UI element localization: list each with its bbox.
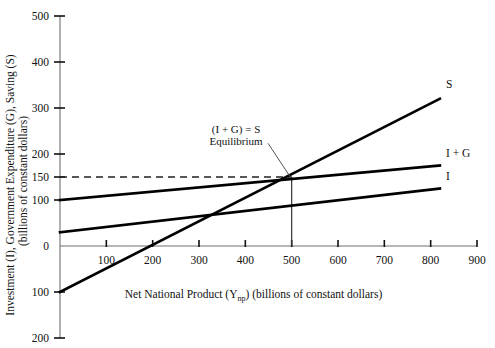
x-axis-tick-labels: 100200300400500600700800900 xyxy=(98,254,486,266)
series-labels: SI + GI xyxy=(446,78,470,182)
x-tick-label: 800 xyxy=(422,254,440,266)
x-tick-label: 600 xyxy=(329,254,347,266)
y-tick-label: 400 xyxy=(32,56,50,68)
x-tick-label: 200 xyxy=(144,254,162,266)
chart-container: 5004003002001501000100200 10020030040050… xyxy=(0,0,495,348)
economics-line-chart: 5004003002001501000100200 10020030040050… xyxy=(0,0,495,348)
y-tick-label: 200 xyxy=(32,332,50,344)
annotation-leader-line xyxy=(268,143,290,176)
x-tick-label: 400 xyxy=(237,254,255,266)
x-axis-title: Net National Product (Ynp) (billions of … xyxy=(125,288,383,303)
equilibrium-annotation: (I + G) = S Equilibrium xyxy=(209,123,289,176)
y-tick-label: 500 xyxy=(32,10,50,22)
y-axis-tick-labels: 5004003002001501000100200 xyxy=(32,10,50,344)
x-tick-label: 500 xyxy=(283,254,301,266)
reference-lines xyxy=(60,177,292,246)
y-tick-label: 200 xyxy=(32,148,50,160)
y-axis-title: Investment (I), Government Expenditure (… xyxy=(4,54,17,315)
x-tick-label: 900 xyxy=(468,254,486,266)
y-tick-label: 150 xyxy=(32,171,50,183)
series-label-S: S xyxy=(446,78,452,90)
series-label-I: I xyxy=(446,170,450,182)
y-tick-label: 300 xyxy=(32,102,50,114)
equilibrium-label-line2: Equilibrium xyxy=(209,135,263,147)
y-tick-label: 100 xyxy=(32,194,50,206)
y-tick-label: 100 xyxy=(32,286,50,298)
y-tick-label: 0 xyxy=(43,240,49,252)
x-tick-label: 700 xyxy=(376,254,394,266)
y-axis-title-units: (billions of constant dollars) xyxy=(17,116,30,246)
x-tick-label: 300 xyxy=(190,254,208,266)
series-label-IG: I + G xyxy=(446,147,470,159)
